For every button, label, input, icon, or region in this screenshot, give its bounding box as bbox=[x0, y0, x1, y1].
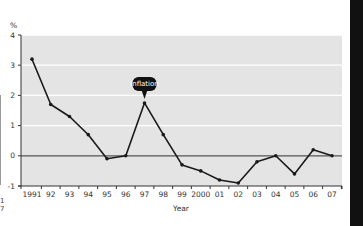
x-tick-label: 02 bbox=[233, 190, 243, 199]
x-tick-label: 04 bbox=[271, 190, 281, 199]
x-tick-label: 01 bbox=[215, 190, 225, 199]
inflation-line-chart: 43210-1 19919293949596979899200001020304… bbox=[0, 0, 350, 226]
x-tick-label: 93 bbox=[65, 190, 75, 199]
page-edge-black-strip bbox=[350, 0, 363, 226]
x-tick-label: 99 bbox=[177, 190, 187, 199]
data-point bbox=[30, 57, 34, 61]
data-point bbox=[143, 101, 147, 105]
y-tick-label: 4 bbox=[10, 31, 15, 40]
x-tick-label: 03 bbox=[252, 190, 262, 199]
y-axis: 43210-1 bbox=[8, 31, 21, 191]
data-point bbox=[49, 103, 53, 107]
data-point bbox=[161, 133, 165, 137]
x-tick-label: 97 bbox=[140, 190, 150, 199]
data-point bbox=[255, 160, 259, 164]
annotation-label: inflation bbox=[130, 80, 159, 88]
x-axis: 19919293949596979899200001020304050607 bbox=[18, 186, 342, 199]
data-point bbox=[180, 163, 184, 167]
x-axis-label: Year bbox=[172, 204, 190, 213]
x-tick-label: 96 bbox=[121, 190, 131, 199]
data-point bbox=[236, 181, 240, 185]
y-tick-label: 0 bbox=[10, 151, 15, 160]
y-tick-label: -1 bbox=[8, 182, 16, 191]
y-tick-label: 1 bbox=[10, 121, 15, 130]
x-tick-label: 95 bbox=[102, 190, 112, 199]
data-point bbox=[86, 133, 90, 137]
y-axis-label: % bbox=[10, 21, 17, 30]
data-point bbox=[311, 148, 315, 152]
x-tick-label: 06 bbox=[308, 190, 318, 199]
data-point bbox=[274, 154, 278, 158]
x-tick-label: 98 bbox=[158, 190, 168, 199]
x-tick-label: 2000 bbox=[191, 190, 210, 199]
data-point bbox=[199, 169, 203, 173]
data-point bbox=[105, 157, 109, 161]
data-point bbox=[124, 154, 128, 158]
x-tick-label: 1991 bbox=[22, 190, 41, 199]
x-tick-label: 07 bbox=[327, 190, 337, 199]
x-tick-label: 94 bbox=[83, 190, 93, 199]
y-tick-label: 3 bbox=[10, 61, 15, 70]
data-point bbox=[330, 154, 334, 158]
y-tick-label: 2 bbox=[10, 91, 15, 100]
x-tick-label: 05 bbox=[290, 190, 300, 199]
data-point bbox=[68, 115, 72, 119]
data-point bbox=[218, 178, 222, 182]
data-point bbox=[293, 172, 297, 176]
x-tick-label: 92 bbox=[46, 190, 56, 199]
